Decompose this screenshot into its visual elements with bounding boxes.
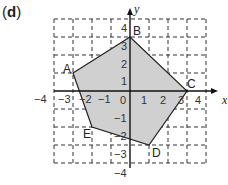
- y-tick: 4: [121, 22, 127, 34]
- x-tick: 0: [120, 94, 126, 106]
- y-tick: 3: [121, 40, 127, 52]
- x-tick: 1: [141, 94, 147, 106]
- vertex-label-d: D: [152, 146, 161, 160]
- coordinate-grid-diagram: x y −4 −3 −2 −1 0 1 2 3 4 4 3 2 1 −1 −2 …: [0, 0, 228, 185]
- y-tick: −3: [114, 148, 127, 160]
- y-tick: 1: [121, 75, 127, 87]
- x-axis-label: x: [221, 93, 228, 107]
- y-axis-arrow-icon: [127, 8, 133, 15]
- x-tick: −4: [34, 93, 47, 105]
- vertex-label-e: E: [83, 127, 91, 141]
- y-tick: 2: [121, 58, 127, 70]
- x-axis-arrow-icon: [211, 88, 218, 94]
- x-tick: 2: [160, 94, 166, 106]
- y-axis-label: y: [133, 2, 140, 16]
- y-tick: −2: [114, 130, 127, 142]
- x-tick: 3: [178, 94, 184, 106]
- vertex-label-a: A: [63, 62, 71, 76]
- y-tick: −4: [114, 167, 127, 179]
- vertex-label-c: C: [187, 77, 196, 91]
- x-tick: −2: [79, 93, 92, 105]
- x-tick: 4: [195, 94, 201, 106]
- y-tick: −1: [114, 112, 127, 124]
- x-tick: −3: [58, 93, 71, 105]
- x-tick: −1: [98, 93, 111, 105]
- vertex-label-b: B: [133, 24, 141, 38]
